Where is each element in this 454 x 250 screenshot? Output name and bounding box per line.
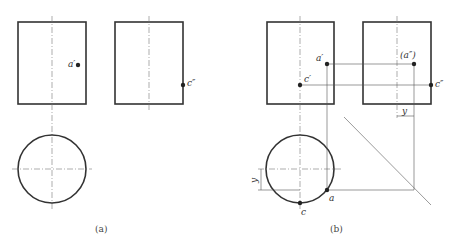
label-a-prime-b: a′: [316, 53, 323, 63]
label-c-prime-b: c′: [304, 74, 311, 84]
label-y-top: y: [401, 106, 408, 116]
label-a-prime: a′: [68, 59, 75, 69]
point-c-prime-b: [298, 83, 302, 87]
label-c-double-prime: c″: [187, 78, 196, 88]
front-view-rect-b: [267, 22, 334, 104]
point-a-b: [325, 188, 329, 192]
panel-a: a′ c″ (a): [12, 16, 196, 234]
panel-b: y y a′ c′ (a″) c″ a c (b): [249, 16, 444, 234]
caption-a: (a): [95, 224, 107, 234]
point-c-double-prime: [181, 83, 185, 87]
label-y-left: y: [249, 177, 259, 184]
label-c-double-prime-b: c″: [435, 79, 444, 89]
point-c-b: [298, 201, 302, 205]
label-a-b: a: [329, 193, 334, 203]
label-a-double-prime-b: (a″): [400, 50, 416, 60]
point-c-double-prime-b: [429, 83, 433, 87]
caption-b: (b): [330, 224, 343, 234]
label-c-b: c: [301, 207, 306, 217]
point-a-prime-b: [325, 62, 329, 66]
projection-diagram: a′ c″ (a) y y a′ c′ (a″) c″: [0, 0, 454, 250]
point-a-prime: [76, 63, 80, 67]
point-a-double-prime-b: [412, 62, 416, 66]
miter-line-45: [344, 117, 431, 205]
